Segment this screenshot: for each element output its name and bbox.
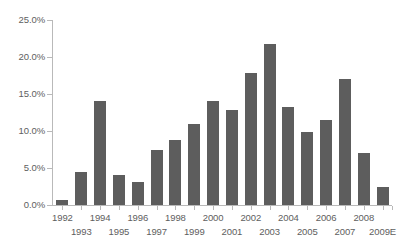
y-axis-tick-label: 5.0% <box>24 163 45 173</box>
x-axis-tick <box>232 206 233 210</box>
bar-chart: 0.0%5.0%10.0%15.0%20.0%25.0% 19921993199… <box>0 0 398 251</box>
x-axis-tick <box>100 206 101 210</box>
bar-slot <box>354 20 373 205</box>
x-axis-tick <box>270 206 271 210</box>
bar[interactable] <box>113 175 125 205</box>
bar-slot <box>241 20 260 205</box>
bar-slot <box>110 20 129 205</box>
bar-slot <box>260 20 279 205</box>
bar-slot <box>147 20 166 205</box>
bar-slot <box>166 20 185 205</box>
x-axis-tick <box>345 206 346 210</box>
bar[interactable] <box>245 73 257 205</box>
x-axis-tick-label: 2006 <box>316 213 337 223</box>
bar-slot <box>317 20 336 205</box>
y-axis-tick <box>47 20 52 21</box>
bar-slot <box>279 20 298 205</box>
bar-slot <box>128 20 147 205</box>
x-axis-tick <box>119 206 120 210</box>
bar[interactable] <box>169 140 181 205</box>
y-axis-tick-label: 20.0% <box>19 52 45 62</box>
x-axis-tick-label: 2000 <box>203 213 224 223</box>
x-axis-tick <box>288 206 289 210</box>
x-axis-tick <box>364 206 365 210</box>
bar[interactable] <box>358 153 370 205</box>
x-axis-tick <box>157 206 158 210</box>
x-axis-tick <box>251 206 252 210</box>
bar[interactable] <box>339 79 351 205</box>
x-axis-tick-label: 2007 <box>335 227 356 237</box>
bar-slot <box>298 20 317 205</box>
y-axis-tick-label: 15.0% <box>19 89 45 99</box>
x-axis-tick-label: 2004 <box>278 213 299 223</box>
y-axis-tick <box>47 205 52 206</box>
y-axis-tick <box>47 57 52 58</box>
x-axis-tick <box>175 206 176 210</box>
y-axis-tick-label: 0.0% <box>24 200 45 210</box>
bar-slot <box>204 20 223 205</box>
bar[interactable] <box>282 107 294 205</box>
x-axis-tick-label: 2009E <box>369 227 396 237</box>
bar[interactable] <box>75 172 87 205</box>
bar-slot <box>53 20 72 205</box>
x-axis-tick <box>138 206 139 210</box>
y-axis-tick <box>47 168 52 169</box>
bar[interactable] <box>94 101 106 205</box>
bar[interactable] <box>207 101 219 205</box>
y-axis-tick-label: 10.0% <box>19 126 45 136</box>
bar[interactable] <box>377 187 389 205</box>
x-axis-tick <box>307 206 308 210</box>
bar-slot <box>91 20 110 205</box>
x-axis-tick-label: 1997 <box>146 227 167 237</box>
bar[interactable] <box>320 120 332 205</box>
bar-slot <box>185 20 204 205</box>
plot-area <box>53 20 392 205</box>
x-axis-tick <box>62 206 63 210</box>
x-axis-tick-label: 2005 <box>297 227 318 237</box>
y-axis-tick-label: 25.0% <box>19 15 45 25</box>
x-axis-tick-label: 2002 <box>240 213 261 223</box>
x-axis-tick-label: 1993 <box>71 227 92 237</box>
y-axis-labels: 0.0%5.0%10.0%15.0%20.0%25.0% <box>0 0 52 251</box>
x-axis-tick <box>194 206 195 210</box>
x-axis-tick <box>81 206 82 210</box>
bar[interactable] <box>151 150 163 205</box>
x-axis-tick-label: 1999 <box>184 227 205 237</box>
bar-slot <box>72 20 91 205</box>
y-axis-tick <box>47 131 52 132</box>
x-axis-tick <box>213 206 214 210</box>
x-axis-tick-label: 2001 <box>222 227 243 237</box>
bar[interactable] <box>226 110 238 205</box>
x-axis-tick-label: 1995 <box>109 227 130 237</box>
bar[interactable] <box>132 182 144 205</box>
y-axis-tick <box>47 94 52 95</box>
x-axis-tick-label: 1992 <box>52 213 73 223</box>
x-axis-tick-end <box>392 206 393 210</box>
bar[interactable] <box>301 132 313 205</box>
x-axis-tick <box>326 206 327 210</box>
x-axis-tick-label: 1994 <box>90 213 111 223</box>
bar[interactable] <box>188 124 200 205</box>
x-axis-line <box>52 205 392 206</box>
bar[interactable] <box>264 44 276 205</box>
bar-slot <box>373 20 392 205</box>
bar-slot <box>336 20 355 205</box>
x-axis-tick-label: 1998 <box>165 213 186 223</box>
x-axis-tick-label: 1996 <box>127 213 148 223</box>
bar-slot <box>223 20 242 205</box>
bar[interactable] <box>56 200 68 205</box>
x-axis-tick-label: 2008 <box>353 213 374 223</box>
x-axis-tick <box>383 206 384 210</box>
x-axis-tick-label: 2003 <box>259 227 280 237</box>
